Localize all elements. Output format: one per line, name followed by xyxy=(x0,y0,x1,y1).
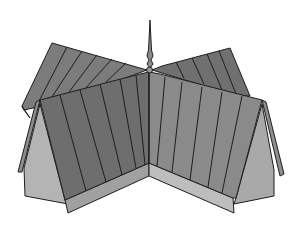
roof-illustration: Line illustration of two intersecting ga… xyxy=(0,0,298,232)
spire-finial xyxy=(147,20,154,73)
roof-drawing xyxy=(0,0,298,232)
